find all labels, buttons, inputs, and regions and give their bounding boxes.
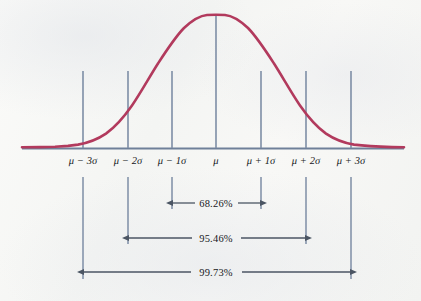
bracket-label-99: 99.73% <box>196 267 236 278</box>
sigma-gridlines <box>83 16 351 148</box>
bracket-3-sigma-droplines <box>83 177 351 279</box>
bracket-label-68: 68.26% <box>196 198 236 209</box>
normal-distribution-figure <box>0 0 421 301</box>
axis-label-minus-1-sigma: μ − 1σ <box>158 156 187 167</box>
bracket-label-95: 95.46% <box>196 233 236 244</box>
axis-label-mu: μ <box>213 156 218 167</box>
axis-label-minus-3-sigma: μ − 3σ <box>69 156 98 167</box>
normal-curve <box>22 15 404 148</box>
axis-label-plus-3-sigma: μ + 3σ <box>337 156 366 167</box>
axis-label-plus-1-sigma: μ + 1σ <box>247 156 276 167</box>
axis-label-minus-2-sigma: μ − 2σ <box>114 156 143 167</box>
figure-page: μ − 3σ μ − 2σ μ − 1σ μ μ + 1σ μ + 2σ μ +… <box>0 0 421 301</box>
axis-label-plus-2-sigma: μ + 2σ <box>292 156 321 167</box>
